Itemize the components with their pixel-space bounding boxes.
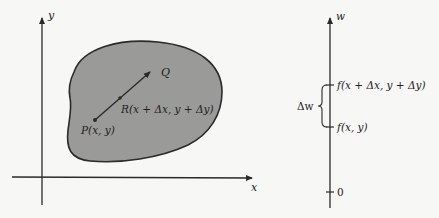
y-axis-label: y [47, 9, 55, 22]
x-axis-label: x [251, 181, 258, 194]
point-q-label: Q [161, 66, 170, 79]
point-r [118, 96, 121, 99]
tick-zero-label: 0 [337, 186, 344, 198]
w-axis-label: w [336, 10, 345, 22]
tick-lower-label: f(x, y) [336, 121, 368, 133]
point-p-label: P(x, y) [80, 124, 115, 136]
delta-w-brace [318, 85, 327, 127]
right-w-axis-panel: w f(x + Δx, y + Δy) f(x, y) 0 Δw [297, 10, 426, 208]
tick-upper-label: f(x + Δx, y + Δy) [336, 79, 426, 91]
delta-w-label: Δw [297, 100, 314, 112]
region-d [68, 41, 222, 162]
point-r-label: R(x + Δx, y + Δy) [120, 103, 214, 115]
x-axis [12, 177, 252, 178]
point-p [93, 118, 97, 122]
left-xy-plane: y x Q R(x + Δx, y + Δy) P(x, y) [12, 9, 258, 205]
diagram-canvas: y x Q R(x + Δx, y + Δy) P(x, y) w f(x + … [0, 0, 439, 218]
